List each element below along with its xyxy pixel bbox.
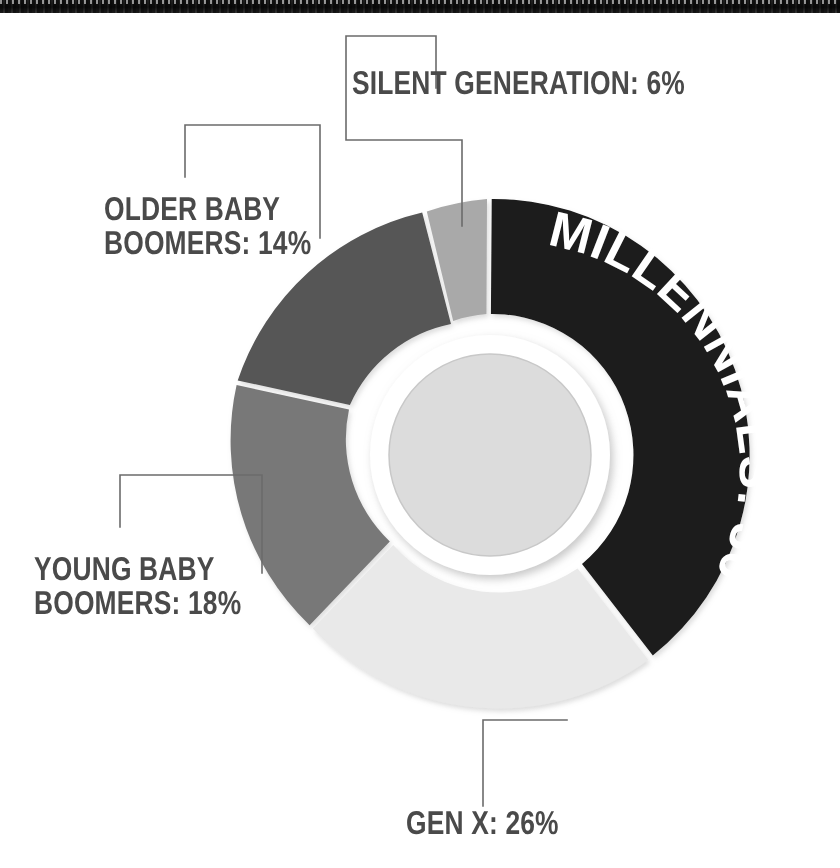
label-older-boomers-line2: BOOMERS: 14% [104,226,311,260]
label-older-boomers-line1: OLDER BABY [104,192,311,226]
label-young-boomers-line1: YOUNG BABY [34,552,241,586]
label-young-boomers-line2: BOOMERS: 18% [34,586,241,620]
chart-canvas: MILLENNIALS: 36% SILENT GENERATION: 6% O… [0,0,840,868]
label-genx-text: GEN X: 26% [406,806,559,840]
label-young-baby-boomers: YOUNG BABY BOOMERS: 18% [34,552,241,619]
donut-hub [370,335,610,575]
hub-fill [389,354,591,556]
label-silent-generation: SILENT GENERATION: 6% [352,66,685,100]
label-gen-x: GEN X: 26% [406,806,559,840]
leader-genx [483,720,567,806]
label-older-baby-boomers: OLDER BABY BOOMERS: 14% [104,192,311,259]
label-silent-text: SILENT GENERATION: 6% [352,66,685,100]
donut-chart: MILLENNIALS: 36% [0,0,840,868]
